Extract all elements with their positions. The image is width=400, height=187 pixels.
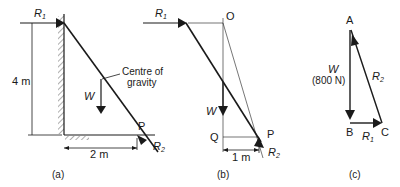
ladder-force-diagram: R1 4 m 2 m W Centre of gravity P R2 (a) … bbox=[0, 0, 400, 187]
ground-hatching bbox=[65, 136, 89, 140]
w-arrowhead bbox=[345, 110, 355, 120]
weight-value-label: (800 N) bbox=[312, 75, 345, 86]
distance-label: 1 m bbox=[232, 151, 250, 163]
wall-hatching bbox=[58, 16, 64, 134]
height-label: 4 m bbox=[12, 75, 30, 87]
r1-label: R1 bbox=[155, 7, 167, 20]
r2-label: R2 bbox=[268, 146, 280, 159]
point-p-label: P bbox=[267, 128, 274, 140]
panel-c: A B C W (800 N) R1 R2 (c) bbox=[312, 14, 389, 180]
r1-arrowhead bbox=[178, 18, 187, 28]
r1-label: R1 bbox=[362, 130, 374, 143]
cog-label-line1: Centre of bbox=[122, 66, 163, 77]
weight-label: W bbox=[84, 90, 96, 102]
cog-pointer bbox=[102, 74, 120, 79]
weight-label: W bbox=[206, 105, 218, 117]
caption-c: (c) bbox=[349, 169, 361, 180]
r2-arrowhead bbox=[351, 34, 359, 46]
cog-label-line2: gravity bbox=[127, 77, 156, 88]
panel-b: R1 O W Q P R2 1 m (b) bbox=[143, 7, 280, 180]
panel-a: R1 4 m 2 m W Centre of gravity P R2 (a) bbox=[12, 7, 165, 180]
weight-label: W bbox=[328, 63, 340, 75]
point-a-label: A bbox=[346, 14, 354, 26]
weight-arrowhead bbox=[218, 106, 228, 116]
r1-label: R1 bbox=[34, 7, 46, 20]
point-c-label: C bbox=[381, 126, 389, 138]
caption-b: (b) bbox=[217, 169, 229, 180]
caption-a: (a) bbox=[52, 169, 64, 180]
r2-label: R2 bbox=[372, 70, 384, 83]
r2-arrowhead bbox=[137, 135, 147, 145]
point-q-label: Q bbox=[210, 131, 219, 143]
point-p-label: P bbox=[138, 120, 145, 132]
width-label: 2 m bbox=[90, 148, 108, 160]
point-b-label: B bbox=[346, 126, 353, 138]
r2-label: R2 bbox=[153, 140, 165, 153]
point-o-label: O bbox=[226, 10, 235, 22]
weight-arrowhead bbox=[96, 106, 106, 114]
